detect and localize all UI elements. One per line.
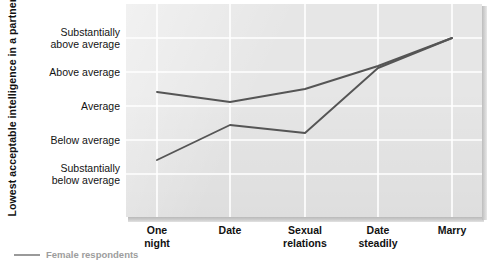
x-tick-line2: night: [102, 237, 212, 250]
y-tick-line1: Substantially: [24, 162, 120, 174]
x-tick-line1: Marry: [397, 224, 491, 237]
y-tick-label-above-average: Above average: [24, 66, 120, 78]
y-tick-line1: Substantially: [24, 26, 120, 38]
y-tick-line2: below average: [24, 174, 120, 186]
plot-area: [126, 4, 482, 217]
y-axis-title-text: Lowest acceptable intelligence in a part…: [6, 0, 19, 217]
y-tick-label-substantially-below-average: Substantially below average: [24, 162, 120, 186]
y-tick-label-substantially-above-average: Substantially above average: [24, 26, 120, 50]
y-axis-tick-labels: Substantially above average Above averag…: [24, 0, 124, 215]
x-tick-label-marry: Marry: [397, 224, 491, 237]
x-axis-tick-labels: One night Date Sexual relations Date ste…: [126, 224, 482, 252]
line-chart-figure: Lowest acceptable intelligence in a part…: [0, 0, 491, 260]
y-axis-title: Lowest acceptable intelligence in a part…: [0, 0, 24, 215]
panel-shadow-bottom: [128, 217, 484, 222]
y-tick-line2: above average: [24, 38, 120, 50]
legend-swatch-female: [14, 254, 40, 256]
y-tick-line1: Average: [24, 100, 120, 112]
y-tick-label-below-average: Below average: [24, 134, 120, 146]
chart-legend: Female respondents: [14, 250, 314, 260]
legend-label-female: Female respondents: [46, 250, 138, 260]
y-tick-label-average: Average: [24, 100, 120, 112]
y-tick-line1: Above average: [24, 66, 120, 78]
plot-svg: [126, 4, 482, 217]
vertical-gridlines: [157, 4, 452, 217]
x-tick-line2: steadily: [323, 237, 433, 250]
horizontal-gridlines: [126, 38, 482, 174]
panel-shadow-right: [482, 6, 487, 220]
y-tick-line1: Below average: [24, 134, 120, 146]
